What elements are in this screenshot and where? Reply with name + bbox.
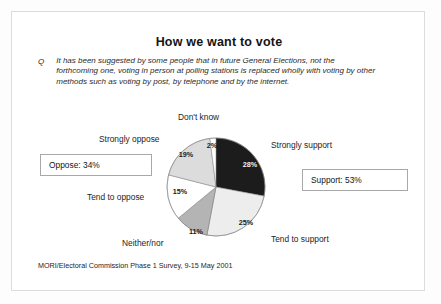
- category-label-tend-to-oppose: Tend to oppose: [87, 192, 144, 202]
- question-text: It has been suggested by some people tha…: [56, 56, 376, 87]
- slice-neither-nor: [178, 187, 216, 235]
- page-title: How we want to vote: [12, 35, 426, 49]
- slide-frame: How we want to vote Q It has been sugges…: [11, 11, 425, 291]
- callout-oppose: Oppose: 34%: [40, 154, 152, 176]
- question-marker: Q: [38, 56, 44, 87]
- source-citation: MORI/Electoral Commission Phase 1 Survey…: [38, 261, 232, 270]
- slice-value-dont-know: 2%: [207, 141, 218, 150]
- slice-tend-to-support: [207, 187, 264, 236]
- category-label-dont-know: Don't know: [178, 112, 219, 122]
- category-label-strongly-support: Strongly support: [271, 140, 332, 150]
- slice-value-strongly-oppose: 19%: [179, 150, 194, 159]
- question-block: Q It has been suggested by some people t…: [38, 56, 398, 87]
- pie-chart: 28% 25% 11% 15% 19% 2%: [12, 12, 426, 292]
- category-label-tend-to-support: Tend to support: [271, 234, 329, 244]
- slice-value-neither-nor: 11%: [189, 227, 204, 236]
- slice-tend-to-oppose: [167, 175, 216, 218]
- slice-dont-know: [210, 138, 216, 187]
- slice-value-tend-to-support: 25%: [239, 218, 254, 227]
- category-label-neither-nor: Neither/nor: [122, 238, 163, 248]
- slice-value-tend-to-oppose: 15%: [173, 187, 188, 196]
- pie-outline: [167, 138, 265, 236]
- slice-value-strongly-support: 28%: [243, 160, 258, 169]
- category-label-strongly-oppose: Strongly oppose: [99, 134, 160, 144]
- pie-slices: [167, 138, 265, 236]
- slice-strongly-support: [216, 138, 265, 196]
- slide-canvas: How we want to vote Q It has been sugges…: [0, 0, 441, 304]
- slice-strongly-oppose: [169, 138, 216, 187]
- callout-support: Support: 53%: [302, 169, 408, 191]
